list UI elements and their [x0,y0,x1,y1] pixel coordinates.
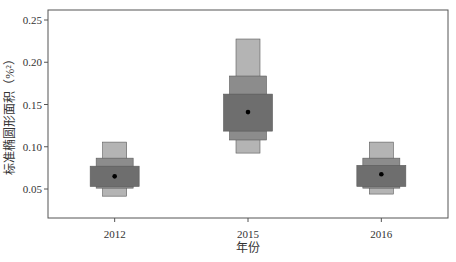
median-point [246,110,251,115]
x-axis: 201220152016 [104,218,393,240]
boxen-chart: 0.050.100.150.200.25 201220152016 年份 标准椭… [0,0,456,262]
x-tick-label: 2016 [370,228,393,240]
median-point [112,174,117,179]
boxen-group-2012 [90,142,139,196]
y-tick-label: 0.15 [23,99,43,111]
median-point [379,172,384,177]
y-tick-label: 0.10 [23,141,43,153]
y-tick-label: 0.25 [23,14,43,26]
y-axis: 0.050.100.150.200.25 [23,14,48,195]
x-tick-label: 2015 [237,228,260,240]
plot-area [90,39,406,196]
x-tick-label: 2012 [104,228,126,240]
y-tick-label: 0.05 [23,183,43,195]
boxen-group-2016 [357,142,406,194]
y-axis-title: 标准椭圆形面积（%²） [2,53,17,175]
boxen-group-2015 [224,39,273,153]
x-axis-title: 年份 [236,241,260,255]
y-tick-label: 0.20 [23,56,43,68]
